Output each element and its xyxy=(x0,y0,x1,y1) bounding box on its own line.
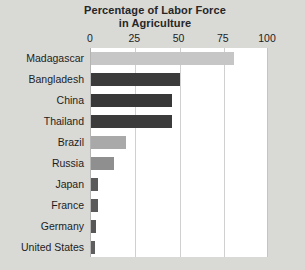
bar-row xyxy=(91,69,268,90)
bar-thailand xyxy=(91,115,172,128)
x-tick-label: 50 xyxy=(173,32,185,44)
category-label-madagascar: Madagascar xyxy=(26,48,84,69)
x-tick-label: 0 xyxy=(87,32,93,44)
y-axis-category-labels: MadagascarBangladeshChinaThailandBrazilR… xyxy=(0,48,87,257)
bar-bangladesh xyxy=(91,73,180,86)
x-tick-label: 75 xyxy=(217,32,229,44)
category-label-china: China xyxy=(57,90,84,111)
bar-madagascar xyxy=(91,52,234,65)
bar-germany xyxy=(91,220,96,233)
chart-title-line-1: Percentage of Labor Force xyxy=(84,4,226,16)
category-label-united-states: United States xyxy=(21,237,84,258)
category-label-thailand: Thailand xyxy=(44,111,84,132)
category-label-germany: Germany xyxy=(41,216,84,237)
bar-brazil xyxy=(91,136,126,149)
bar-france xyxy=(91,199,98,212)
bar-japan xyxy=(91,178,98,191)
bar-row xyxy=(91,237,268,258)
category-label-russia: Russia xyxy=(52,153,84,174)
category-label-brazil: Brazil xyxy=(58,132,84,153)
bar-row xyxy=(91,153,268,174)
bar-row xyxy=(91,216,268,237)
category-label-bangladesh: Bangladesh xyxy=(29,69,84,90)
category-label-france: France xyxy=(51,195,84,216)
bar-chart-figure: Percentage of Labor Force in Agriculture… xyxy=(0,0,305,270)
bar-row xyxy=(91,132,268,153)
category-label-japan: Japan xyxy=(55,174,84,195)
chart-title-line-2: in Agriculture xyxy=(60,17,250,30)
bar-row xyxy=(91,90,268,111)
x-tick-label: 100 xyxy=(258,32,276,44)
plot-area xyxy=(90,48,268,257)
bar-row xyxy=(91,48,268,69)
bar-row xyxy=(91,111,268,132)
x-tick-label: 25 xyxy=(128,32,140,44)
bar-row xyxy=(91,174,268,195)
chart-title: Percentage of Labor Force in Agriculture xyxy=(60,4,250,30)
x-axis-tick-labels: 0255075100 xyxy=(0,32,305,46)
bar-china xyxy=(91,94,172,107)
bar-row xyxy=(91,195,268,216)
bar-united-states xyxy=(91,241,95,254)
bar-russia xyxy=(91,157,114,170)
